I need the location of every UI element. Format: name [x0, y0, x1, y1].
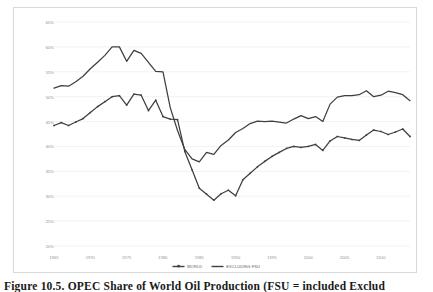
data-point-marker: [68, 125, 70, 127]
data-point-marker: [300, 147, 302, 149]
data-point-marker: [402, 128, 404, 130]
plot-area: [14, 8, 418, 253]
series-line-world: [54, 94, 410, 200]
data-point-marker: [366, 134, 368, 136]
data-point-marker: [206, 193, 208, 195]
gridlines: [54, 22, 410, 246]
data-point-marker: [140, 94, 142, 96]
data-point-marker: [162, 116, 164, 118]
data-point-marker: [90, 112, 92, 114]
data-point-marker: [148, 110, 150, 112]
y-axis-tick-label: 40%: [28, 144, 54, 149]
data-point-marker: [119, 95, 121, 97]
data-point-marker: [329, 140, 331, 142]
x-axis-tick-label: 1980: [146, 255, 180, 260]
y-axis-tick-label: 20%: [28, 244, 54, 249]
x-axis-tick-label: 1985: [182, 255, 216, 260]
x-axis-tick-label: 1990: [219, 255, 253, 260]
data-point-marker: [344, 137, 346, 139]
legend-swatch: [172, 264, 185, 269]
data-point-marker: [257, 166, 259, 168]
data-point-marker: [308, 146, 310, 148]
data-point-marker: [228, 189, 230, 191]
figure-container: 65%60%55%50%45%40%35%30%25%20% 196519701…: [0, 0, 433, 292]
x-axis-tick-label: 1970: [73, 255, 107, 260]
data-point-marker: [199, 188, 201, 190]
y-axis-tick-label: 25%: [28, 219, 54, 224]
data-point-marker: [271, 156, 273, 158]
data-point-marker: [111, 96, 113, 98]
data-point-marker: [169, 118, 171, 120]
figure-caption-text: Figure 10.5. OPEC Share of World Oil Pro…: [4, 280, 433, 292]
data-point-marker: [286, 148, 288, 150]
data-point-marker: [322, 150, 324, 152]
line-chart-svg: [14, 8, 418, 253]
data-point-marker: [387, 134, 389, 136]
data-point-marker: [315, 144, 317, 146]
chart-legend: WORLDEXCLUDING FSU: [14, 261, 418, 272]
data-point-marker: [191, 169, 193, 171]
y-axis-tick-label: 35%: [28, 169, 54, 174]
legend-entry-world[interactable]: WORLD: [172, 264, 202, 269]
data-point-marker: [373, 129, 375, 131]
data-point-marker: [97, 106, 99, 108]
data-point-marker: [213, 199, 215, 201]
x-axis-tick-label: 2000: [291, 255, 325, 260]
data-point-marker: [133, 93, 135, 95]
y-axis-tick-label: 50%: [28, 94, 54, 99]
data-point-marker: [358, 140, 360, 142]
legend-label: EXCLUDING FSU: [226, 264, 260, 269]
data-point-marker: [61, 122, 63, 124]
data-point-marker: [104, 101, 106, 103]
y-axis-tick-labels: 65%60%55%50%45%40%35%30%25%20%: [28, 8, 54, 253]
data-point-marker: [75, 121, 77, 123]
data-point-marker: [380, 131, 382, 133]
data-point-marker: [220, 193, 222, 195]
legend-label: WORLD: [187, 264, 202, 269]
data-point-marker: [351, 139, 353, 141]
legend-entry-excluding-fsu[interactable]: EXCLUDING FSU: [211, 264, 260, 269]
data-point-marker: [395, 131, 397, 133]
x-axis-tick-label: 1995: [255, 255, 289, 260]
figure-caption: Figure 10.5. OPEC Share of World Oil Pro…: [4, 280, 433, 292]
y-axis-tick-label: 60%: [28, 44, 54, 49]
data-point-marker: [235, 195, 237, 197]
data-point-marker: [278, 152, 280, 154]
data-point-marker: [184, 151, 186, 153]
data-point-marker: [409, 136, 411, 138]
series-line-excluding-fsu: [54, 47, 410, 162]
data-point-marker: [177, 119, 179, 121]
data-point-marker: [264, 161, 266, 163]
data-point-marker: [82, 118, 84, 120]
x-axis-tick-label: 1975: [110, 255, 144, 260]
series-lines: [54, 47, 410, 200]
x-axis-tick-label: 2005: [328, 255, 362, 260]
y-axis-tick-label: 55%: [28, 69, 54, 74]
data-point-marker: [242, 179, 244, 181]
data-point-marker: [126, 104, 128, 106]
chart-card: 65%60%55%50%45%40%35%30%25%20% 196519701…: [13, 7, 417, 273]
data-point-marker: [155, 99, 157, 101]
data-point-marker: [249, 173, 251, 175]
data-point-marker: [337, 136, 339, 138]
y-axis-tick-label: 30%: [28, 194, 54, 199]
y-axis-tick-label: 45%: [28, 119, 54, 124]
x-axis-tick-label: 2010: [364, 255, 398, 260]
series-markers: [53, 93, 411, 201]
x-axis-tick-label: 1965: [37, 255, 71, 260]
data-point-marker: [293, 146, 295, 148]
legend-swatch: [211, 264, 224, 269]
y-axis-tick-label: 65%: [28, 20, 54, 25]
